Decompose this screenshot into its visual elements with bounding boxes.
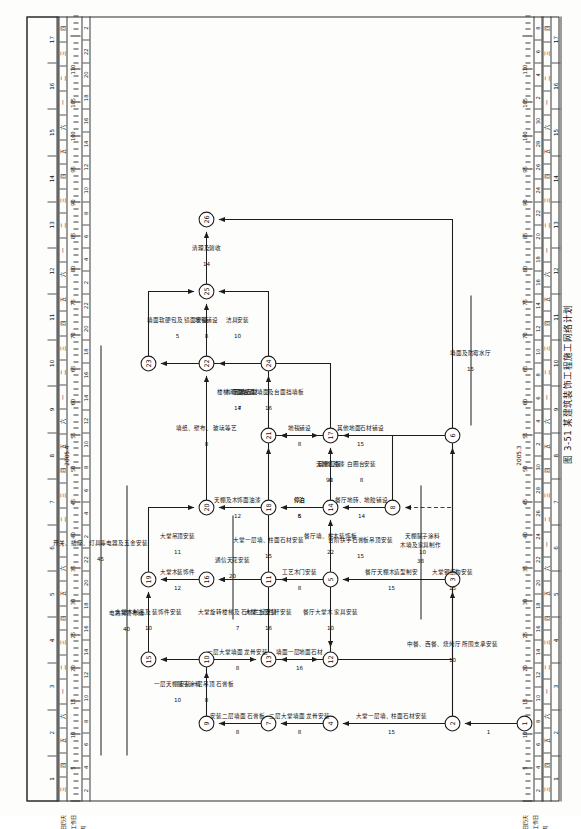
side-activity-duration: 40 bbox=[122, 625, 129, 631]
network-node-label: 9 bbox=[202, 721, 210, 725]
activity-duration: 8 bbox=[204, 696, 208, 702]
activity-name: 白圈台安装 bbox=[346, 460, 376, 466]
side-activity-line bbox=[232, 515, 233, 619]
activity-duration: 12 bbox=[173, 584, 180, 590]
activity-duration: 12 bbox=[233, 512, 240, 518]
side-activity-name: 通信天花安装 bbox=[214, 556, 249, 562]
activity-duration: 10 bbox=[418, 548, 425, 554]
activity-duration: 7 bbox=[237, 404, 241, 410]
activity-arrow bbox=[148, 507, 194, 572]
activity-duration: 15 bbox=[448, 584, 455, 590]
activity-name: 大堂旋转楼梯及 石材栏板安装 bbox=[198, 608, 276, 614]
network-node-label: 6 bbox=[448, 433, 456, 437]
network-node-label: 4 bbox=[326, 721, 334, 725]
activity-duration: 1 bbox=[486, 728, 490, 734]
activity-duration: 15 bbox=[387, 728, 394, 734]
activity-name: 大堂钢结构安装 bbox=[431, 568, 472, 574]
activity-name: 清理及验收 bbox=[191, 244, 221, 250]
activity-name: 二层大堂墙面 龙骨安装 bbox=[269, 712, 330, 718]
activity-arrow bbox=[404, 507, 452, 572]
network-node-label: 17 bbox=[326, 431, 334, 439]
activity-name: 餐厅大堂木 家具安装 bbox=[303, 608, 358, 614]
activity-duration: 8 bbox=[297, 440, 301, 446]
network-node-label: 5 bbox=[326, 577, 334, 581]
network-node-label: 15 bbox=[144, 655, 152, 663]
activity-duration: 10 bbox=[448, 656, 455, 662]
network-node-label: 23 bbox=[144, 359, 152, 367]
network-node-label: 8 bbox=[388, 505, 396, 509]
network-node-label: 12 bbox=[326, 655, 334, 663]
rail-corner-label: 工作日 bbox=[68, 814, 75, 829]
activity-name: 洁具安装 bbox=[225, 316, 249, 322]
network-node-label: 19 bbox=[144, 575, 152, 583]
network-node-label: 7 bbox=[264, 721, 272, 725]
activity-duration: 16 bbox=[264, 624, 271, 630]
activity-arrow bbox=[218, 579, 330, 652]
activity-arrow bbox=[280, 442, 452, 659]
network-node-label: 18 bbox=[264, 503, 272, 511]
activity-duration: 22 bbox=[326, 548, 333, 554]
activity-duration: 16 bbox=[295, 664, 302, 670]
activity-name: 安装二层墙面 石膏板 bbox=[210, 712, 265, 718]
activity-duration: 15 bbox=[356, 440, 363, 446]
network-node-label: 24 bbox=[264, 359, 272, 367]
side-activity-line bbox=[470, 295, 471, 425]
activity-duration: 15 bbox=[356, 552, 363, 558]
activity-name: 其他工程 bbox=[317, 460, 341, 466]
activity-name: 餐厅地砖、地胶铺设 bbox=[334, 496, 387, 502]
activity-duration: 10 bbox=[144, 624, 151, 630]
activity-arrow bbox=[160, 659, 206, 716]
activity-name: 停泊 bbox=[293, 496, 305, 502]
activity-duration: 10 bbox=[326, 624, 333, 630]
activity-name: 大堂一层墙、柱面石材安装 bbox=[233, 536, 304, 542]
activity-name: 木饰面油漆 bbox=[224, 388, 254, 394]
activity-duration: 5 bbox=[175, 332, 179, 338]
activity-duration: 14 bbox=[357, 512, 364, 518]
activity-arrow bbox=[218, 291, 268, 356]
network-node-label: 21 bbox=[264, 431, 272, 439]
activity-duration: 10 bbox=[233, 332, 240, 338]
side-activity-name: 电路排管布线 bbox=[108, 609, 143, 615]
activity-name: 墙纸、壁布、 玻璃等艺 bbox=[176, 424, 237, 430]
activity-name: 工艺木门安装 bbox=[281, 568, 316, 574]
activity-duration: 7 bbox=[235, 624, 239, 630]
side-activity-name: 墙面及防霉水厅 bbox=[449, 349, 490, 355]
figure-caption: 图 3-51 某建筑装饰工程施工网络计划 bbox=[560, 304, 572, 463]
rail-corner-label: 月 bbox=[78, 824, 85, 829]
activity-arrow bbox=[218, 363, 268, 428]
activity-duration: 8 bbox=[297, 584, 301, 590]
rail-corner-label: 月 bbox=[540, 824, 547, 829]
activity-duration: 11 bbox=[173, 548, 180, 554]
network-node-label: 10 bbox=[202, 655, 210, 663]
network-node-label: 20 bbox=[202, 503, 210, 511]
activity-duration: 14 bbox=[202, 260, 209, 266]
network-node-label: 3 bbox=[448, 577, 456, 581]
rail-corner-label: 日历天 bbox=[58, 814, 65, 829]
activity-duration: 16 bbox=[264, 404, 271, 410]
side-activity-duration: 38 bbox=[416, 557, 423, 563]
activity-name: 其他地面石材铺设 bbox=[336, 424, 383, 430]
activity-name: 地毯铺设 bbox=[287, 424, 311, 430]
activity-arrow bbox=[218, 579, 268, 652]
activity-name: 台阶扶手石膏板吊顶安装 bbox=[328, 536, 393, 542]
activity-name: 大堂一层墙、柱面石材安装 bbox=[356, 712, 427, 718]
activity-duration: 90 bbox=[325, 476, 332, 482]
activity-name: 安装一层吊顶 石膏板 bbox=[179, 680, 234, 686]
activity-duration: 8 bbox=[359, 476, 363, 482]
activity-duration: 8 bbox=[235, 664, 239, 670]
activity-duration: 8 bbox=[204, 440, 208, 446]
network-node-label: 11 bbox=[264, 575, 272, 583]
side-activity-name: 开关、插座、灯具等电器及五金安装 bbox=[53, 539, 147, 545]
activity-name: 中餐、西餐、烧烤厅 所围支承安装 bbox=[407, 640, 497, 646]
side-activity-duration: 15 bbox=[466, 365, 473, 371]
network-node-label: 14 bbox=[326, 503, 334, 511]
activity-duration: 8 bbox=[297, 728, 301, 734]
network-node-label: 26 bbox=[202, 215, 210, 223]
side-activity-line bbox=[126, 485, 127, 755]
side-activity-line bbox=[100, 345, 101, 755]
activity-name: 大堂木装饰件 bbox=[159, 568, 194, 574]
activity-name: 大堂吊顶安装 bbox=[159, 532, 194, 538]
network-node-label: 2 bbox=[448, 721, 456, 725]
